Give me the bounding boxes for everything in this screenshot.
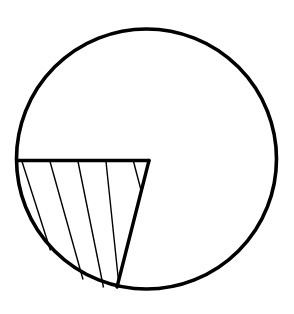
diagonal-edge [117,161,149,288]
hatch-line [106,162,119,282]
geometry-diagram [0,0,294,314]
hatch-line [134,162,142,191]
hatch-line [78,162,104,288]
figure-canvas [0,0,294,314]
